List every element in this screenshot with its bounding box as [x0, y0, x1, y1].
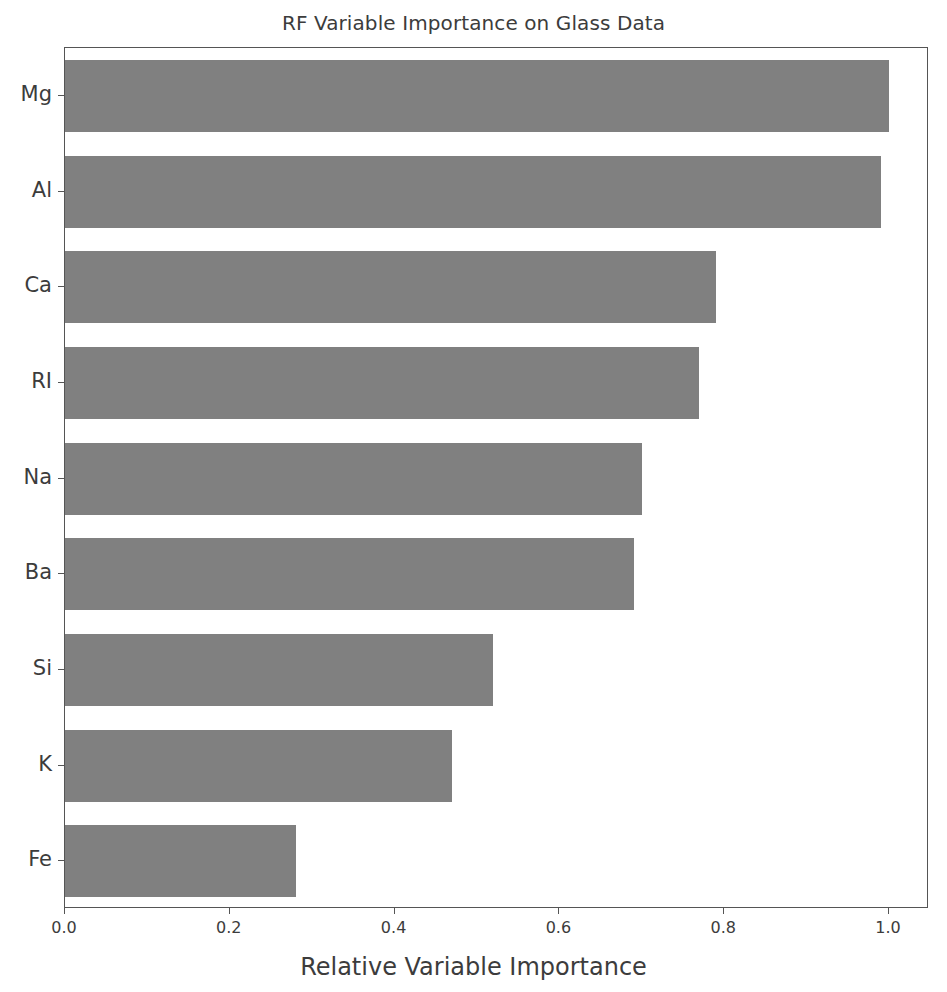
x-tick-mark	[64, 908, 65, 914]
x-tick-label-1-0: 1.0	[858, 920, 918, 936]
chart-figure: RF Variable Importance on Glass Data MgA…	[0, 0, 947, 992]
bar-ba	[65, 538, 634, 610]
y-tick-mark	[58, 478, 64, 479]
bar-row	[65, 634, 929, 706]
y-tick-label-ca: Ca	[2, 275, 52, 296]
bar-row	[65, 825, 929, 897]
x-tick-mark	[888, 908, 889, 914]
bar-al	[65, 156, 881, 228]
y-tick-label-mg: Mg	[2, 84, 52, 105]
x-tick-label-0-4: 0.4	[364, 920, 424, 936]
y-tick-label-fe: Fe	[2, 849, 52, 870]
x-tick-label-0-0: 0.0	[34, 920, 94, 936]
y-tick-label-k: K	[2, 754, 52, 775]
bar-row	[65, 156, 929, 228]
x-tick-mark	[558, 908, 559, 914]
bar-ca	[65, 251, 716, 323]
y-tick-label-si: Si	[2, 658, 52, 679]
bar-na	[65, 443, 642, 515]
y-tick-label-ri: RI	[2, 371, 52, 392]
bar-row	[65, 60, 929, 132]
chart-title: RF Variable Importance on Glass Data	[0, 10, 947, 36]
x-tick-mark	[229, 908, 230, 914]
x-tick-mark	[394, 908, 395, 914]
y-tick-label-na: Na	[2, 467, 52, 488]
bar-row	[65, 730, 929, 802]
bar-row	[65, 347, 929, 419]
y-tick-mark	[58, 669, 64, 670]
bar-row	[65, 443, 929, 515]
bar-row	[65, 251, 929, 323]
y-tick-label-al: Al	[2, 180, 52, 201]
bar-k	[65, 730, 452, 802]
y-tick-mark	[58, 191, 64, 192]
bar-ri	[65, 347, 699, 419]
y-tick-mark	[58, 860, 64, 861]
y-tick-label-ba: Ba	[2, 562, 52, 583]
x-tick-label-0-6: 0.6	[528, 920, 588, 936]
x-tick-mark	[723, 908, 724, 914]
x-tick-label-0-8: 0.8	[693, 920, 753, 936]
bar-row	[65, 538, 929, 610]
y-tick-mark	[58, 573, 64, 574]
bar-si	[65, 634, 493, 706]
bar-fe	[65, 825, 296, 897]
y-tick-mark	[58, 765, 64, 766]
x-tick-label-0-2: 0.2	[199, 920, 259, 936]
plot-area	[64, 47, 928, 908]
bar-mg	[65, 60, 889, 132]
y-tick-mark	[58, 382, 64, 383]
x-axis-label: Relative Variable Importance	[0, 952, 947, 982]
y-tick-mark	[58, 286, 64, 287]
y-tick-mark	[58, 95, 64, 96]
